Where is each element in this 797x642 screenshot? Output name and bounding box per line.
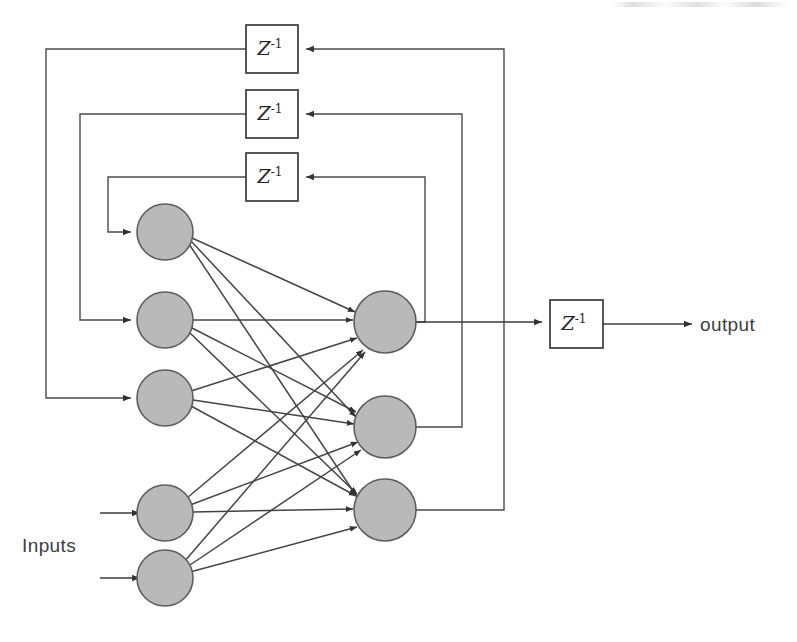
delay-feedback-3[interactable]: Z-1 <box>246 153 298 201</box>
hidden-neuron-3[interactable] <box>354 479 416 541</box>
synapse-group <box>184 238 365 572</box>
synapse-in5-h1 <box>184 352 365 562</box>
hidden-neuron-1[interactable] <box>354 291 416 353</box>
synapse-in3-h1 <box>191 338 357 391</box>
network-diagram-canvas: Z-1 Z-1 Z-1 Z-1 <box>0 0 797 642</box>
synapse-in3-h3 <box>191 406 356 496</box>
input-layer-group <box>137 204 193 606</box>
input-neuron-4[interactable] <box>137 485 193 541</box>
delay-feedback-2[interactable]: Z-1 <box>246 90 298 138</box>
synapse-in1-h1 <box>192 238 355 312</box>
hidden-layer-group <box>354 291 416 541</box>
synapse-in2-h2 <box>192 328 356 412</box>
delay-output[interactable]: Z-1 <box>550 300 603 348</box>
input-neuron-1[interactable] <box>137 204 193 260</box>
input-neuron-2[interactable] <box>137 292 193 348</box>
synapse-in5-h3 <box>190 527 357 572</box>
feedback-2-right-run <box>306 114 462 427</box>
hidden-neuron-2[interactable] <box>354 396 416 458</box>
inputs-label: Inputs <box>22 535 76 556</box>
input-neuron-3[interactable] <box>137 370 193 426</box>
input-neuron-5[interactable] <box>137 550 193 606</box>
external-input-group <box>100 513 140 578</box>
output-label: output <box>700 314 756 335</box>
delay-feedback-1[interactable]: Z-1 <box>246 25 298 73</box>
rnn-diagram: Z-1 Z-1 Z-1 Z-1 <box>0 0 797 642</box>
